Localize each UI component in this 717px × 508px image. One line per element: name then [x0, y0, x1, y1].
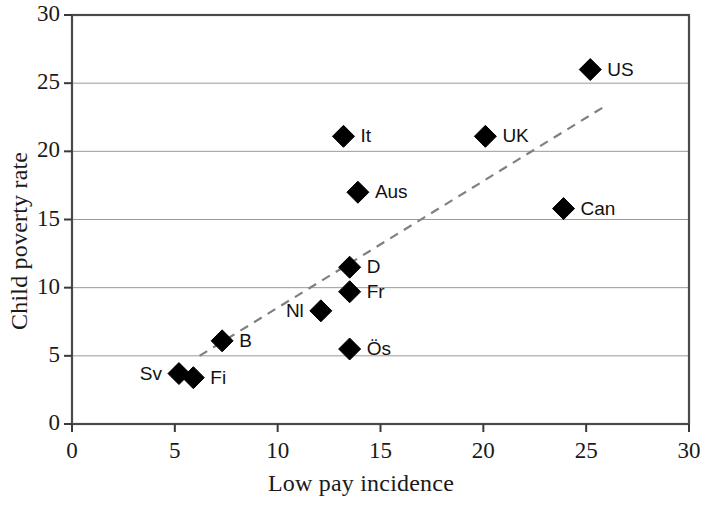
data-point-Aus — [347, 181, 369, 203]
x-tick-label-30: 30 — [667, 438, 711, 464]
data-point-UK — [474, 125, 496, 147]
point-label-UK: UK — [502, 125, 528, 147]
point-label-Ös: Ös — [367, 338, 391, 360]
data-point-US — [579, 59, 601, 81]
point-label-US: US — [607, 59, 633, 81]
x-tick-label-15: 15 — [359, 438, 403, 464]
y-tick-label-25: 25 — [16, 69, 60, 95]
point-label-Aus: Aus — [375, 181, 408, 203]
point-label-Sv: Sv — [102, 363, 162, 385]
scatter-chart: 051015202530051015202530 USUKItCanAusDFr… — [0, 0, 717, 508]
point-label-Fi: Fi — [210, 367, 226, 389]
point-label-D: D — [367, 256, 381, 278]
point-label-Fr: Fr — [367, 281, 385, 303]
x-tick-label-25: 25 — [564, 438, 608, 464]
y-tick-label-30: 30 — [16, 1, 60, 27]
data-point-Can — [553, 198, 575, 220]
x-axis-title: Low pay incidence — [268, 470, 454, 497]
data-point-Nl — [310, 300, 332, 322]
y-tick-label-5: 5 — [16, 342, 60, 368]
x-tick-label-10: 10 — [256, 438, 300, 464]
y-tick-label-0: 0 — [16, 410, 60, 436]
point-label-Can: Can — [581, 198, 616, 220]
x-tick-label-5: 5 — [153, 438, 197, 464]
data-point-It — [332, 125, 354, 147]
x-tick-label-20: 20 — [461, 438, 505, 464]
data-point-B — [211, 330, 233, 352]
x-tick-label-0: 0 — [50, 438, 94, 464]
data-point-Ös — [339, 338, 361, 360]
point-label-Nl: Nl — [244, 300, 304, 322]
point-label-It: It — [360, 125, 371, 147]
point-label-B: B — [239, 330, 252, 352]
data-point-Fr — [339, 281, 361, 303]
y-axis-title: Child poverty rate — [6, 152, 33, 330]
